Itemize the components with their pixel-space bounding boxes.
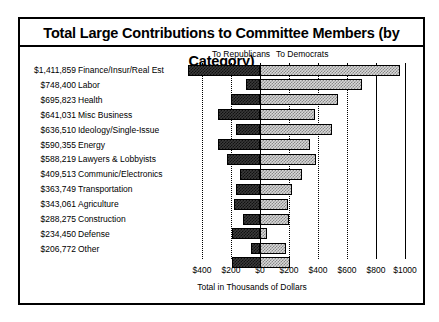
gridline-400 <box>318 63 319 259</box>
bar-republicans <box>232 228 260 239</box>
bar-democrats <box>260 65 400 76</box>
chart-legend: To Republicans To Democrats <box>20 49 423 63</box>
plot-area: $1,411,859Finance/Insur/Real Est$748,400… <box>20 63 423 263</box>
bars-container <box>20 63 423 263</box>
bar-republicans <box>236 124 260 135</box>
bar-democrats <box>260 124 332 135</box>
x-tick-label: $400 <box>193 265 212 275</box>
legend-item-democrats: To Democrats <box>276 49 328 59</box>
gridline-600 <box>347 63 348 259</box>
bar-republicans <box>231 94 260 105</box>
x-tick-label: $400 <box>309 265 328 275</box>
bar-republicans <box>234 199 260 210</box>
bar-republicans <box>243 214 260 225</box>
bar-republicans <box>240 169 260 180</box>
bar-republicans <box>188 65 260 76</box>
gridline-800 <box>376 63 377 259</box>
x-tick-label: $800 <box>367 265 386 275</box>
bar-republicans <box>218 139 260 150</box>
gridline--400 <box>202 63 203 259</box>
gridline-1000 <box>405 63 406 259</box>
bar-republicans <box>246 79 260 90</box>
bar-republicans <box>251 243 260 254</box>
legend-swatch-republicans <box>232 257 262 268</box>
bar-republicans <box>218 109 260 120</box>
bar-democrats <box>260 184 292 195</box>
bar-democrats <box>260 243 286 254</box>
bar-democrats <box>260 199 288 210</box>
chart-title: Total Large Contributions to Committee M… <box>20 19 423 47</box>
bar-republicans <box>227 154 260 165</box>
chart-frame: Total Large Contributions to Committee M… <box>18 17 425 305</box>
bar-democrats <box>260 94 338 105</box>
legend-swatch-democrats <box>260 257 290 268</box>
bar-democrats <box>260 169 302 180</box>
bar-democrats <box>260 154 316 165</box>
bar-democrats <box>260 214 289 225</box>
bar-republicans <box>236 184 260 195</box>
x-tick-label: $1000 <box>393 265 417 275</box>
x-axis-ticks: $400$200$0$200$400$600$800$1000 <box>20 265 423 279</box>
legend-item-republicans: To Republicans <box>212 49 270 59</box>
bar-democrats <box>260 228 267 239</box>
bar-democrats <box>260 79 362 90</box>
bar-democrats <box>260 109 315 120</box>
bar-democrats <box>260 139 310 150</box>
x-tick-label: $600 <box>338 265 357 275</box>
